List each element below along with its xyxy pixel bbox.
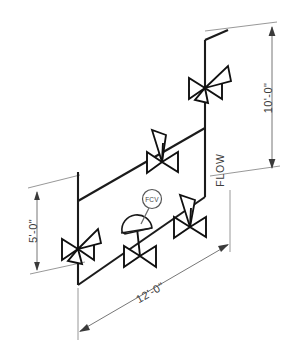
dimension-label-5ft: 5'-0" [27, 219, 39, 243]
flow-annotation: FLOW [214, 153, 226, 187]
dimension-vertical-right: 10'-0" [205, 22, 280, 176]
dimension-arrow-diag-left [79, 324, 90, 332]
control-valve-right-wedge [140, 246, 156, 267]
valve-lower-right-stem [190, 208, 191, 227]
dimension-label-12ft: 12'-0" [134, 280, 166, 306]
piping-isometric-drawing: 10'-0" 5'-0" 12'-0" [0, 0, 297, 356]
valve-left-drop-lever [78, 229, 101, 249]
dimension-extension-line-left-top [28, 175, 80, 188]
isometric-diagram-canvas: 10'-0" 5'-0" 12'-0" [0, 0, 297, 356]
fcv-bubble-tag: FCV [145, 196, 159, 203]
flow-label: FLOW [214, 153, 226, 187]
dimension-arrow-diag-right [218, 244, 229, 252]
control-valve-left-wedge [124, 246, 140, 267]
valve-upper-run-right-wedge [162, 152, 178, 172]
valve-lower-run-right[interactable] [174, 195, 206, 238]
pipe-upper-run [78, 128, 205, 201]
valve-top-riser-lever [205, 66, 231, 88]
valve-upper-run-stem [162, 143, 163, 162]
dimension-arrow-left-up [34, 191, 40, 200]
valve-lower-right-right-wedge [190, 217, 206, 237]
valve-top-riser[interactable] [189, 66, 231, 103]
control-valve-assembly[interactable]: FCV [121, 190, 162, 268]
dimension-label-10ft: 10'-0" [262, 83, 274, 113]
pipe-top-inlet-branch [205, 30, 228, 40]
dimension-arrow-left-down [34, 262, 40, 271]
dimension-extension-line-top [205, 22, 277, 31]
dimension-arrow-up [269, 26, 276, 36]
valve-upper-run[interactable] [147, 130, 178, 173]
valve-left-drop[interactable] [62, 229, 101, 264]
